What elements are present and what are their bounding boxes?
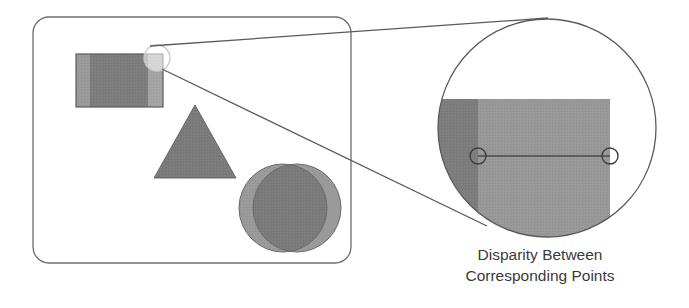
caption-line-1: Disparity Between xyxy=(420,244,660,265)
circle-shape xyxy=(239,158,341,258)
caption-line-2: Corresponding Points xyxy=(420,265,660,286)
triangle-shape xyxy=(154,105,236,178)
magnify-source-circle xyxy=(144,45,170,71)
disparity-caption: Disparity Between Corresponding Points xyxy=(420,244,660,286)
magnifier-view xyxy=(430,19,656,259)
